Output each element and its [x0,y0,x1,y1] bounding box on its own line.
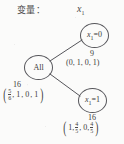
node-x1-equals-0[interactable]: x1=0 [80,23,109,48]
node-all-vector: ( 5 6 , 1 , 0 , 1 ) [2,88,44,102]
vector-term-3: , 0 [21,91,30,99]
node-x1-equals-1[interactable]: x1=1 [78,88,107,113]
node-x1-0-equals: =0 [94,30,103,39]
node-x1-equals-1-vector: ( 1, 4 5 , 0, 4 5 ) [62,121,99,135]
decision-tree-figure: 变量： x1 All 16 ( 5 6 , 1 , 0 , 1 ) x1=0 9… [0,0,124,144]
fraction-denominator: 5 [90,127,93,134]
fraction-four-fifths-b: 4 5 [90,121,94,135]
vector-term-3: , 0, [79,124,90,132]
vector-close-paren: ) [40,88,43,102]
node-all-label: All [33,64,43,72]
vector-terms: 5 6 , 1 , 0 , 1 [8,88,39,102]
vector-open-paren: ( [3,88,6,102]
node-x1-equals-0-vector: (0, 1, 0, 1) [66,59,99,67]
node-x1-equals-0-label: x1=0 [87,31,102,41]
vector-term-1: 1, [68,124,75,132]
vector-term-4: , 1 [30,91,39,99]
vector-terms: 1, 4 5 , 0, 4 5 [68,121,94,135]
vector-open-paren: ( [63,121,66,135]
vector-term-2: , 1 [12,91,21,99]
node-x1-equals-0-count: 9 [90,50,94,58]
node-all[interactable]: All [24,55,53,80]
node-x1-equals-1-label: x1=1 [85,96,100,106]
edge-root-to-x1-1 [50,74,80,96]
vector-close-paren: ) [95,121,98,135]
node-x1-1-equals: =1 [92,95,101,104]
